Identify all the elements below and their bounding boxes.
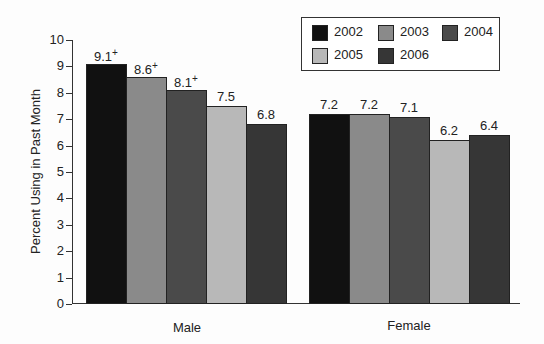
y-tick-label: 8: [40, 86, 64, 100]
bar-value-label: 7.1: [389, 100, 429, 115]
y-tick-label: 10: [40, 33, 64, 47]
legend-swatch: [312, 48, 328, 64]
bar-female-2005: [429, 140, 470, 304]
bar-male-2004: [166, 90, 207, 304]
y-tick: [66, 172, 72, 173]
category-label-male: Male: [127, 320, 247, 335]
bar-male-2006: [246, 124, 287, 304]
y-tick-label: 2: [40, 244, 64, 258]
bar-value-label: 7.2: [349, 97, 389, 112]
bar-female-2006: [469, 135, 510, 304]
y-tick: [66, 304, 72, 305]
bar-value-label: 6.2: [429, 123, 469, 138]
legend-swatch: [312, 25, 328, 41]
bar-female-2003: [349, 114, 390, 304]
y-tick-label: 9: [40, 59, 64, 73]
y-tick-label: 1: [40, 271, 64, 285]
bar-male-2002: [86, 64, 127, 304]
legend-item-2005: 2005: [312, 47, 363, 64]
y-tick-label: 7: [40, 112, 64, 126]
legend-swatch: [378, 48, 394, 64]
legend-label: 2003: [400, 24, 429, 39]
bar-value-label: 6.4: [469, 118, 509, 133]
y-axis: [72, 40, 73, 304]
legend-item-2002: 2002: [312, 24, 363, 41]
bar-female-2002: [309, 114, 350, 304]
legend-item-2006: 2006: [378, 47, 429, 64]
y-tick-label: 4: [40, 191, 64, 205]
legend-label: 2002: [334, 24, 363, 39]
legend-item-2004: 2004: [442, 24, 493, 41]
legend: 20022003200420052006: [301, 17, 500, 71]
bar-value-label: 7.5: [206, 89, 246, 104]
y-tick-label: 5: [40, 165, 64, 179]
legend-swatch: [378, 25, 394, 41]
y-tick: [66, 119, 72, 120]
bar-value-label: 7.2: [309, 97, 349, 112]
y-tick-label: 0: [40, 297, 64, 311]
legend-item-2003: 2003: [378, 24, 429, 41]
bar-value-label: 8.1+: [166, 73, 206, 90]
legend-swatch: [442, 25, 458, 41]
y-tick: [66, 66, 72, 67]
y-tick: [66, 225, 72, 226]
y-tick: [66, 146, 72, 147]
y-tick: [66, 251, 72, 252]
y-tick: [66, 93, 72, 94]
bar-value-label: 9.1+: [86, 47, 126, 64]
y-tick: [66, 278, 72, 279]
legend-label: 2004: [464, 24, 493, 39]
bar-male-2005: [206, 106, 247, 304]
bar-chart: Percent Using in Past Month 012345678910…: [0, 0, 544, 344]
y-tick: [66, 40, 72, 41]
y-tick-label: 6: [40, 139, 64, 153]
bar-value-label: 6.8: [246, 107, 286, 122]
bar-female-2004: [389, 117, 430, 304]
y-tick-label: 3: [40, 218, 64, 232]
legend-label: 2005: [334, 47, 363, 62]
bar-value-label: 8.6+: [126, 60, 166, 77]
category-label-female: Female: [349, 318, 469, 333]
bar-male-2003: [126, 77, 167, 304]
legend-label: 2006: [400, 47, 429, 62]
y-tick: [66, 198, 72, 199]
